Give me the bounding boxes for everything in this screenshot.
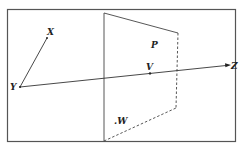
plane-edge-top bbox=[104, 13, 178, 33]
point-v bbox=[149, 72, 151, 74]
point-x bbox=[46, 37, 48, 39]
segment-y-x bbox=[20, 38, 47, 87]
diagram-svg: X Y Z V P .W bbox=[0, 0, 242, 151]
label-v: V bbox=[146, 62, 154, 72]
label-z: Z bbox=[230, 61, 238, 71]
label-w: .W bbox=[114, 116, 128, 126]
line-y-z bbox=[20, 65, 228, 87]
label-p: P bbox=[150, 40, 158, 50]
point-y bbox=[19, 86, 21, 88]
label-y: Y bbox=[10, 82, 18, 92]
label-x: X bbox=[46, 27, 55, 37]
diagram-canvas: X Y Z V P .W bbox=[0, 0, 242, 151]
